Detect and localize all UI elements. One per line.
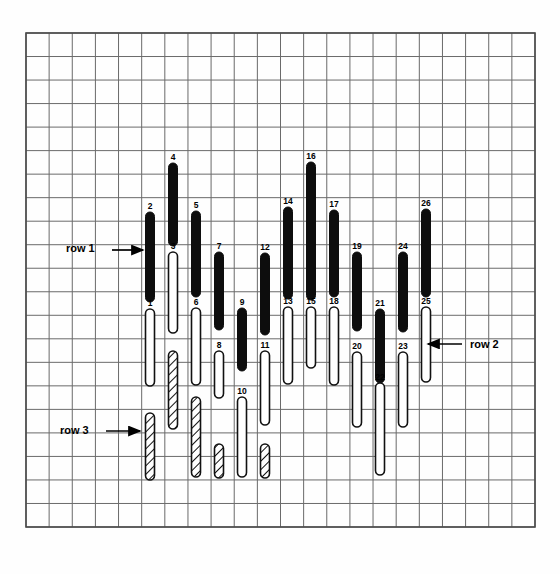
bar-label-24: 24 bbox=[398, 241, 408, 251]
bar-label-19: 19 bbox=[352, 241, 362, 251]
bar-label-17: 17 bbox=[329, 199, 339, 209]
bar-label-7: 7 bbox=[217, 241, 222, 251]
bar-20 bbox=[353, 352, 362, 427]
bar-17 bbox=[330, 210, 339, 297]
bar-label-8: 8 bbox=[217, 340, 222, 350]
bar-9 bbox=[238, 308, 247, 371]
bar-12 bbox=[261, 253, 270, 335]
bar-label-4: 4 bbox=[171, 152, 176, 162]
bar-3 bbox=[169, 252, 178, 333]
bar-label-6: 6 bbox=[194, 297, 199, 307]
bar-4 bbox=[169, 163, 178, 246]
annotation-label-row-3: row 3 bbox=[60, 424, 89, 436]
bar-label-11: 11 bbox=[261, 340, 270, 350]
bar-6 bbox=[192, 308, 201, 385]
chart-svg: 1234567891011121314151617181920212223242… bbox=[0, 0, 560, 574]
bar-5 bbox=[192, 211, 201, 297]
bar-2 bbox=[146, 212, 155, 302]
bar-label-25: 25 bbox=[421, 296, 431, 306]
bar-24 bbox=[399, 252, 408, 332]
bar-10 bbox=[238, 397, 247, 477]
bar-hatch-28 bbox=[192, 397, 201, 477]
bar-23 bbox=[399, 352, 408, 427]
figure-canvas: 1234567891011121314151617181920212223242… bbox=[0, 0, 560, 574]
bar-label-15: 15 bbox=[306, 296, 316, 306]
bar-label-23: 23 bbox=[398, 341, 408, 351]
bar-1 bbox=[146, 309, 155, 386]
bar-label-16: 16 bbox=[306, 151, 316, 161]
bar-18 bbox=[330, 307, 339, 385]
bar-14 bbox=[284, 207, 293, 299]
bar-22 bbox=[376, 383, 385, 475]
bar-16 bbox=[307, 162, 316, 300]
annotation-label-row-2: row 2 bbox=[470, 338, 499, 350]
bar-label-2: 2 bbox=[148, 201, 153, 211]
bar-15 bbox=[307, 307, 316, 368]
bar-label-5: 5 bbox=[194, 200, 199, 210]
bar-hatch-27 bbox=[169, 351, 178, 429]
bar-label-26: 26 bbox=[421, 198, 431, 208]
bar-26 bbox=[422, 209, 431, 297]
bar-7 bbox=[215, 252, 224, 330]
bar-label-1: 1 bbox=[148, 298, 153, 308]
bar-hatch-29 bbox=[215, 444, 224, 478]
bar-hatch-30 bbox=[261, 444, 270, 478]
bar-label-14: 14 bbox=[283, 196, 293, 206]
bar-13 bbox=[284, 307, 293, 384]
bar-label-21: 21 bbox=[375, 298, 385, 308]
bar-label-9: 9 bbox=[240, 297, 245, 307]
bar-label-22: 22 bbox=[375, 372, 385, 382]
bar-label-20: 20 bbox=[352, 341, 362, 351]
bar-11 bbox=[261, 351, 270, 425]
bar-label-3: 3 bbox=[171, 241, 176, 251]
bar-hatch-26 bbox=[146, 413, 155, 480]
annotation-label-row-1: row 1 bbox=[66, 242, 95, 254]
bar-label-12: 12 bbox=[260, 242, 270, 252]
bar-label-13: 13 bbox=[283, 296, 293, 306]
chart-grid bbox=[26, 33, 535, 527]
bar-label-10: 10 bbox=[237, 386, 247, 396]
bar-label-18: 18 bbox=[329, 296, 339, 306]
bar-8 bbox=[215, 351, 224, 398]
bar-19 bbox=[353, 252, 362, 331]
